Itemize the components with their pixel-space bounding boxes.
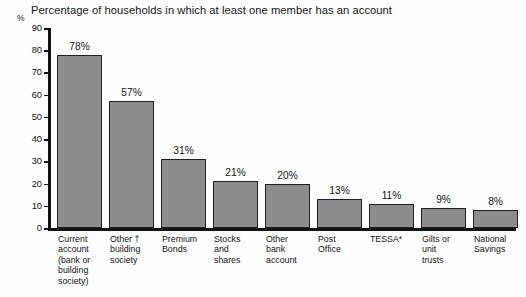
bar-slot: 78% [57, 28, 102, 228]
category-label-line: unit [422, 244, 471, 254]
y-tick-label: 40 [32, 134, 42, 144]
category-label-line: Other [266, 234, 315, 244]
bar-value-label: 31% [161, 145, 206, 156]
category-label-line: shares [214, 255, 263, 265]
y-axis-unit-label: % [17, 13, 25, 23]
category-label: PostOffice [318, 234, 367, 255]
bar-slot: 31% [161, 28, 206, 228]
category-label-line: society [110, 255, 159, 265]
bar [317, 199, 362, 228]
bar [421, 208, 466, 228]
category-label-line: Other † [110, 234, 159, 244]
bar-slot: 21% [213, 28, 258, 228]
bar-value-label: 20% [265, 170, 310, 181]
bar-chart-figure: Percentage of households in which at lea… [0, 0, 526, 297]
bar-slot: 20% [265, 28, 310, 228]
category-label-line: National [474, 234, 523, 244]
category-label-line: account [266, 255, 315, 265]
bar-slot: 9% [421, 28, 466, 228]
category-label: Currentaccount(bank orbuildingsociety) [58, 234, 107, 286]
category-label: Otherbankaccount [266, 234, 315, 265]
bar [369, 204, 414, 228]
category-label: Other †buildingsociety [110, 234, 159, 265]
category-label-line: account [58, 244, 107, 254]
chart-title: Percentage of households in which at lea… [31, 4, 392, 16]
bar [109, 101, 154, 228]
category-label-line: Post [318, 234, 367, 244]
category-label-line: Gilts or [422, 234, 471, 244]
category-label-line: Bonds [162, 244, 211, 254]
bar-value-label: 57% [109, 87, 154, 98]
y-tick-label: 70 [32, 67, 42, 77]
bar-slot: 11% [369, 28, 414, 228]
y-tick-label: 30 [32, 156, 42, 166]
category-label-line: building [58, 265, 107, 275]
category-label: NationalSavings [474, 234, 523, 255]
y-tick-label: 80 [32, 45, 42, 55]
bar [265, 184, 310, 228]
y-tick-label: 90 [32, 23, 42, 33]
y-tick-label: 20 [32, 179, 42, 189]
bar [213, 181, 258, 228]
bar-slot: 13% [317, 28, 362, 228]
y-tick-label: 0 [37, 223, 42, 233]
bar-value-label: 8% [473, 196, 518, 207]
bar [161, 159, 206, 228]
y-tick-label: 60 [32, 90, 42, 100]
category-label-line: TESSA* [370, 234, 419, 244]
bar-value-label: 21% [213, 167, 258, 178]
category-label-line: and [214, 244, 263, 254]
category-label: TESSA* [370, 234, 419, 244]
category-label: Stocksandshares [214, 234, 263, 265]
bars-group: 78%57%31%21%20%13%11%9%8% [48, 28, 516, 228]
x-axis-baseline [48, 228, 516, 231]
category-label-line: Stocks [214, 234, 263, 244]
category-label: Gilts orunittrusts [422, 234, 471, 265]
bar-value-label: 11% [369, 190, 414, 201]
category-label-line: Office [318, 244, 367, 254]
y-tick-label: 10 [32, 201, 42, 211]
category-label-line: trusts [422, 255, 471, 265]
category-label-line: Premium [162, 234, 211, 244]
bar-value-label: 9% [421, 194, 466, 205]
bar-value-label: 78% [57, 41, 102, 52]
category-label: PremiumBonds [162, 234, 211, 255]
bar-slot: 57% [109, 28, 154, 228]
bar [473, 210, 518, 228]
y-tick-label: 50 [32, 112, 42, 122]
category-label-line: bank [266, 244, 315, 254]
category-label-line: society) [58, 276, 107, 286]
bar [57, 55, 102, 228]
bar-slot: 8% [473, 28, 518, 228]
x-axis-category-labels: Currentaccount(bank orbuildingsociety)Ot… [48, 234, 516, 296]
y-tick-mark [44, 228, 48, 230]
category-label-line: (bank or [58, 255, 107, 265]
category-label-line: Savings [474, 244, 523, 254]
bar-value-label: 13% [317, 185, 362, 196]
plot-area: 0102030405060708090 78%57%31%21%20%13%11… [48, 28, 516, 228]
category-label-line: building [110, 244, 159, 254]
category-label-line: Current [58, 234, 107, 244]
